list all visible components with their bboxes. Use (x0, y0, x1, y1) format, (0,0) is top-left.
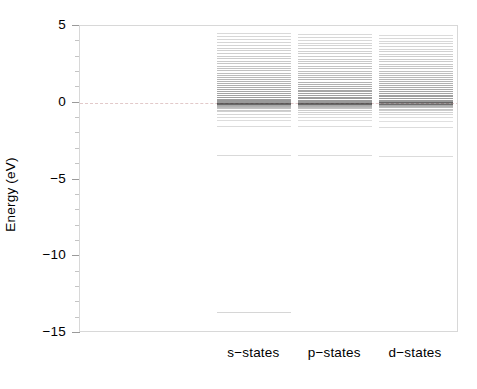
energy-level-line (217, 75, 291, 76)
y-tick-label: −5 (4, 172, 66, 186)
energy-level-line (217, 85, 291, 86)
energy-level-line (217, 68, 291, 69)
energy-level-line (379, 75, 453, 76)
energy-level-line (217, 93, 291, 94)
energy-level-line (298, 77, 372, 78)
state-column-s-states (217, 26, 291, 332)
energy-level-line (217, 120, 291, 121)
y-tick-major (72, 332, 80, 333)
energy-level-line (298, 71, 372, 72)
energy-level-line (379, 61, 453, 62)
energy-level-line (298, 61, 372, 62)
energy-level-line (379, 35, 453, 36)
energy-level-line (217, 111, 291, 112)
energy-level-line (379, 87, 453, 88)
energy-level-line (379, 89, 453, 90)
energy-level-line (217, 56, 291, 57)
energy-level-line (379, 85, 453, 86)
energy-level-line (298, 126, 372, 127)
energy-level-line (298, 114, 372, 115)
energy-level-line (379, 73, 453, 74)
energy-level-line (217, 79, 291, 80)
energy-level-line (217, 33, 291, 34)
energy-level-line (217, 61, 291, 62)
energy-level-line (217, 89, 291, 90)
energy-level-line (379, 43, 453, 44)
energy-level-line (379, 54, 453, 55)
energy-level-line (217, 114, 291, 115)
energy-level-line (379, 49, 453, 50)
energy-level-line (298, 51, 372, 52)
energy-level-line (217, 48, 291, 49)
energy-level-line (298, 73, 372, 74)
energy-level-line (217, 63, 291, 64)
y-tick-label: 5 (4, 18, 66, 32)
energy-level-line (298, 79, 372, 80)
energy-level-line (217, 39, 291, 40)
energy-level-line (217, 50, 291, 51)
energy-level-line (298, 43, 372, 44)
energy-level-line (298, 63, 372, 64)
state-column-p-states (298, 26, 372, 332)
energy-level-line (298, 120, 372, 121)
energy-level-line (217, 66, 291, 67)
energy-level-line (379, 64, 453, 65)
x-tick-label-s-states: s−states (227, 345, 279, 360)
figure-canvas: Energy (eV) 50−5−10−15 s−statesp−statesd… (0, 0, 477, 389)
energy-level-line (298, 75, 372, 76)
energy-level-line (217, 155, 291, 156)
x-tick-label-d-states: d−states (389, 345, 442, 360)
energy-level-line (379, 81, 453, 82)
energy-level-line (298, 84, 372, 85)
energy-level-line (217, 42, 291, 43)
energy-level-line (217, 53, 291, 54)
energy-level-line (298, 66, 372, 67)
energy-level-line (298, 112, 372, 113)
energy-level-line (379, 38, 453, 39)
energy-level-line (298, 155, 372, 156)
energy-level-line (217, 73, 291, 74)
energy-level-line (217, 81, 291, 82)
y-axis-title-text: Energy (eV) (3, 157, 74, 231)
energy-level-line (379, 71, 453, 72)
energy-level-line (379, 46, 453, 47)
energy-level-line (298, 40, 372, 41)
energy-level-line (379, 91, 453, 92)
energy-level-line (298, 117, 372, 118)
energy-level-line (379, 112, 453, 113)
energy-level-line (298, 90, 372, 91)
energy-level-line (217, 77, 291, 78)
energy-level-line (379, 83, 453, 84)
energy-level-line (298, 82, 372, 83)
energy-level-line (298, 59, 372, 60)
energy-level-line (379, 79, 453, 80)
energy-level-line (217, 36, 291, 37)
energy-level-line (298, 88, 372, 89)
energy-level-line (298, 34, 372, 35)
energy-level-line (298, 45, 372, 46)
energy-level-line (217, 83, 291, 84)
energy-level-line (379, 66, 453, 67)
energy-level-line (217, 70, 291, 71)
energy-level-line (379, 59, 453, 60)
energy-level-line (298, 93, 372, 94)
energy-level-line (298, 110, 372, 111)
energy-level-line (217, 87, 291, 88)
energy-level-line (379, 114, 453, 115)
energy-level-line (298, 53, 372, 54)
energy-level-line (379, 156, 453, 157)
energy-level-line (217, 58, 291, 59)
energy-level-line (379, 56, 453, 57)
energy-level-line (217, 45, 291, 46)
energy-level-line (379, 127, 453, 128)
x-tick-label-p-states: p−states (308, 345, 361, 360)
energy-level-line (379, 77, 453, 78)
y-tick-label: −10 (4, 248, 66, 262)
plot-area (79, 25, 458, 332)
energy-level-line (379, 51, 453, 52)
y-tick-label: 0 (4, 95, 66, 109)
energy-level-line (379, 117, 453, 118)
energy-level-line (217, 312, 291, 313)
energy-level-line (379, 121, 453, 122)
state-column-d-states (379, 26, 453, 332)
